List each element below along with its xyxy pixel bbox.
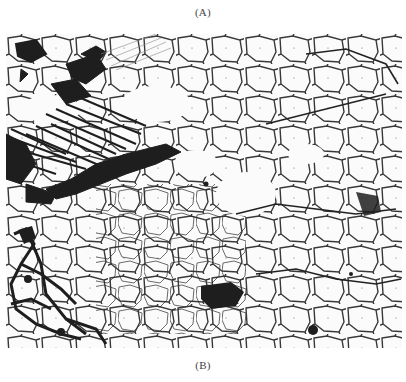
- figure-label-a: (A): [0, 6, 406, 18]
- micrograph-image: [6, 34, 402, 348]
- figure-label-b: (B): [0, 359, 406, 371]
